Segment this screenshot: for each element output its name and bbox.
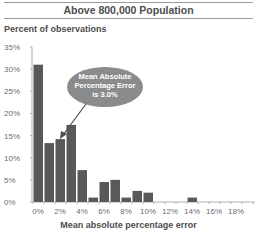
y-tick-label: 35% bbox=[4, 43, 20, 52]
y-tick-label: 15% bbox=[4, 132, 20, 141]
histogram-plot: 0%5%10%15%20%25%30%35%0%2%4%6%8%10%12%14… bbox=[0, 0, 257, 234]
x-tick-label: 6% bbox=[98, 207, 110, 216]
histogram-bar bbox=[89, 198, 99, 202]
histogram-bar bbox=[122, 198, 132, 202]
x-tick-label: 18% bbox=[228, 207, 244, 216]
histogram-bar bbox=[188, 198, 198, 202]
histogram-bar bbox=[45, 143, 55, 202]
y-tick-label: 10% bbox=[4, 154, 20, 163]
x-tick-label: 14% bbox=[184, 207, 200, 216]
y-tick-label: 5% bbox=[4, 176, 16, 185]
histogram-bar bbox=[34, 65, 44, 202]
x-tick-label: 2% bbox=[54, 207, 66, 216]
x-tick-label: 16% bbox=[206, 207, 222, 216]
histogram-bar bbox=[144, 193, 154, 202]
y-tick-label: 30% bbox=[4, 65, 20, 74]
y-tick-label: 25% bbox=[4, 87, 20, 96]
x-tick-label: 4% bbox=[76, 207, 88, 216]
x-tick-label: 10% bbox=[140, 207, 156, 216]
annotation-text: is 3.0% bbox=[92, 90, 118, 99]
x-tick-label: 12% bbox=[162, 207, 178, 216]
histogram-bar bbox=[133, 191, 143, 202]
y-tick-label: 0% bbox=[4, 198, 16, 207]
arrow-head-icon bbox=[60, 131, 67, 139]
x-tick-label: 0% bbox=[32, 207, 44, 216]
histogram-bar bbox=[56, 139, 66, 202]
annotation-text: Mean Absolute bbox=[78, 72, 131, 81]
y-tick-label: 20% bbox=[4, 109, 20, 118]
annotation-text: Percentage Error bbox=[75, 81, 136, 90]
x-tick-label: 8% bbox=[120, 207, 132, 216]
histogram-bar bbox=[100, 182, 110, 202]
histogram-bar bbox=[67, 125, 77, 202]
histogram-bar bbox=[111, 180, 121, 202]
histogram-bar bbox=[78, 170, 88, 202]
